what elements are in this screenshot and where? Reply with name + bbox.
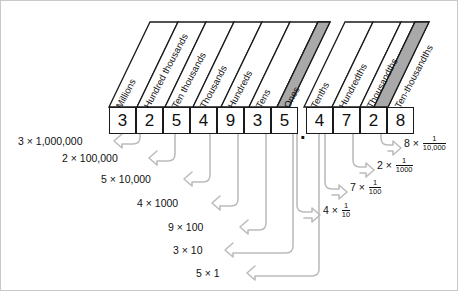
fraction-denominator: 10,000 [423,143,446,152]
fraction-denominator: 1000 [396,165,413,174]
times-symbol: × [332,204,338,216]
fraction-denominator: 100 [369,187,382,196]
coefficient-tenths: 4 [323,204,329,216]
digit-thousandths[interactable]: 2 [360,107,387,134]
digit-tenths[interactable]: 4 [306,107,333,134]
expansion-term-ten-thousandths: 8 × 1 10,000 [404,136,446,153]
coefficient-hundredths: 7 [350,181,356,193]
expansion-term-hundred-thousands: 2 × 100,000 [62,152,118,164]
digit-tens[interactable]: 3 [244,107,271,134]
expansion-term-thousands: 4 × 1000 [137,197,178,209]
place-value-diagram: .blk{fill:#ffffff;stroke:#1a1a1a;stroke-… [0,0,459,292]
times-symbol: × [359,181,365,193]
times-symbol: × [386,159,392,171]
decimal-point: . [300,122,306,142]
digit-thousands[interactable]: 4 [190,107,217,134]
digit-ten-thousands[interactable]: 5 [163,107,190,134]
digit-ten-thousandths[interactable]: 8 [387,107,414,134]
fraction-tenths: 1 10 [342,202,350,219]
expansion-term-tenths: 4 × 1 10 [323,203,350,220]
fraction-numerator: 1 [369,179,382,187]
digit-hundred-thousands[interactable]: 2 [136,107,163,134]
expansion-term-millions: 3 × 1,000,000 [18,135,83,147]
fraction-denominator: 10 [342,210,350,219]
times-symbol: × [413,137,419,149]
digit-ones[interactable]: 5 [271,107,298,134]
digit-hundredths[interactable]: 7 [333,107,360,134]
fraction-ten-thousandths: 1 10,000 [423,135,446,152]
fraction-numerator: 1 [342,202,350,210]
digit-millions[interactable]: 3 [109,107,136,134]
expansion-term-tens: 3 × 10 [173,244,203,256]
expansion-term-hundredths: 7 × 1 100 [350,180,381,197]
fraction-hundredths: 1 100 [369,179,382,196]
coefficient-thousandths: 2 [377,159,383,171]
expansion-term-hundreds: 9 × 100 [168,221,203,233]
expansion-term-ten-thousands: 5 × 10,000 [101,173,151,185]
digit-hundreds[interactable]: 9 [217,107,244,134]
coefficient-ten-thousandths: 8 [404,137,410,149]
fraction-numerator: 1 [396,157,413,165]
expansion-term-thousandths: 2 × 1 1000 [377,158,413,175]
fraction-thousandths: 1 1000 [396,157,413,174]
expansion-term-ones: 5 × 1 [196,267,220,279]
fraction-numerator: 1 [423,135,446,143]
